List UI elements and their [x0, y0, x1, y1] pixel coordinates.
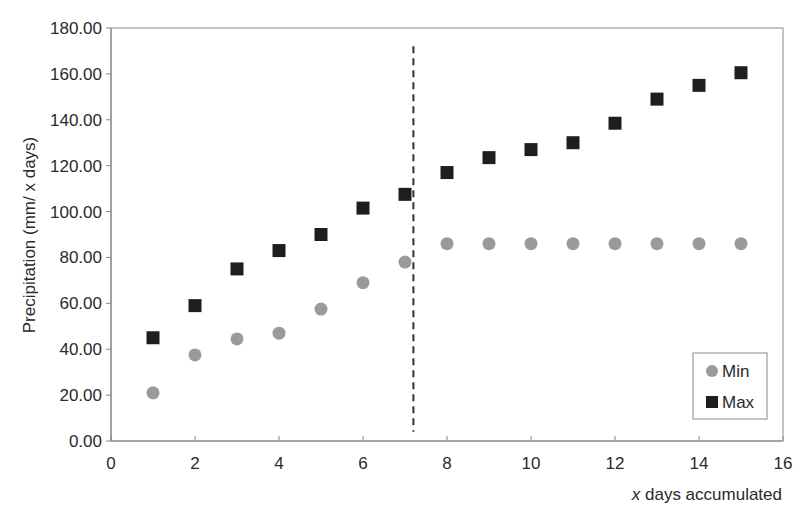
min-data-point	[525, 237, 538, 250]
x-tick-label: 4	[274, 454, 283, 473]
min-data-point	[609, 237, 622, 250]
y-tick-label: 100.00	[50, 203, 102, 222]
max-data-point	[231, 262, 244, 275]
min-data-point	[231, 332, 244, 345]
min-data-point	[357, 276, 370, 289]
min-data-point	[273, 327, 286, 340]
legend: Min Max	[693, 353, 767, 419]
legend-min-label: Min	[722, 362, 749, 381]
y-tick-label: 120.00	[50, 157, 102, 176]
max-data-point	[525, 143, 538, 156]
legend-max-label: Max	[722, 393, 755, 412]
min-data-point	[567, 237, 580, 250]
x-axis-title-variable: x	[631, 485, 641, 504]
max-data-point	[483, 151, 496, 164]
y-tick-label: 180.00	[50, 19, 102, 38]
y-axis-title: Precipitation (mm/ x days)	[20, 137, 39, 334]
min-data-point	[693, 237, 706, 250]
x-tick-label: 2	[190, 454, 199, 473]
y-tick-label: 20.00	[59, 386, 102, 405]
max-data-point	[693, 79, 706, 92]
min-data-point	[483, 237, 496, 250]
max-data-point	[147, 331, 160, 344]
max-data-point	[399, 188, 412, 201]
max-data-point	[441, 166, 454, 179]
y-tick-label: 0.00	[69, 432, 102, 451]
x-axis: 0246810121416	[106, 436, 792, 473]
y-tick-label: 140.00	[50, 111, 102, 130]
max-data-point	[567, 136, 580, 149]
min-data-point	[315, 303, 328, 316]
max-data-point	[315, 228, 328, 241]
x-tick-label: 14	[690, 454, 709, 473]
x-tick-label: 0	[106, 454, 115, 473]
min-data-point	[399, 256, 412, 269]
plot-frame	[111, 28, 783, 441]
x-tick-label: 10	[522, 454, 541, 473]
min-data-point	[651, 237, 664, 250]
x-tick-label: 6	[358, 454, 367, 473]
y-tick-label: 160.00	[50, 65, 102, 84]
legend-max-square-icon	[706, 396, 718, 408]
min-data-point	[147, 386, 160, 399]
scatter-chart: 0.0020.0040.0060.0080.00100.00120.00140.…	[0, 0, 810, 528]
x-tick-label: 16	[774, 454, 793, 473]
x-tick-label: 12	[606, 454, 625, 473]
max-data-point	[189, 299, 202, 312]
y-tick-label: 80.00	[59, 248, 102, 267]
y-tick-label: 40.00	[59, 340, 102, 359]
max-data-point	[357, 202, 370, 215]
x-tick-label: 8	[442, 454, 451, 473]
max-data-point	[651, 93, 664, 106]
y-axis: 0.0020.0040.0060.0080.00100.00120.00140.…	[50, 19, 111, 451]
max-data-point	[609, 117, 622, 130]
max-data-point	[273, 244, 286, 257]
min-data-point	[189, 348, 202, 361]
min-data-point	[735, 237, 748, 250]
plot-area	[111, 28, 783, 441]
max-data-point	[735, 66, 748, 79]
min-data-point	[441, 237, 454, 250]
y-tick-label: 60.00	[59, 294, 102, 313]
legend-min-circle-icon	[706, 365, 718, 377]
x-axis-title-text: days accumulated	[640, 485, 782, 504]
x-axis-title: x days accumulated	[631, 485, 782, 504]
